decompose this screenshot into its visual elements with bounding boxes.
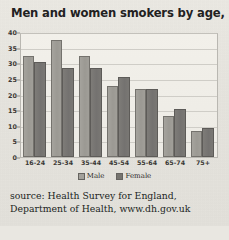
x-axis: 16-2425-3435-4445-5455-6465-7475+ xyxy=(21,160,217,171)
bar-group xyxy=(49,34,77,157)
bar-group xyxy=(77,34,105,157)
legend-item-male: Male xyxy=(78,173,105,180)
bar-male-45-54 xyxy=(107,86,119,157)
bar-male-16-24 xyxy=(23,56,35,157)
x-axis-tick-label: 35-44 xyxy=(81,160,101,166)
legend-swatch-female-icon xyxy=(116,173,123,180)
chart-legend: Male Female xyxy=(0,173,229,180)
x-axis-tick-label: 25-34 xyxy=(53,160,73,166)
legend-item-female: Female xyxy=(116,173,151,180)
legend-label-female: Female xyxy=(125,173,151,180)
bar-male-55-64 xyxy=(135,89,147,157)
bar-group xyxy=(105,34,133,157)
legend-label-male: Male xyxy=(87,173,105,180)
source-note: source: Health Survey for England, Depar… xyxy=(10,190,224,215)
bar-female-16-24 xyxy=(34,62,46,157)
bar-group xyxy=(189,34,217,157)
x-axis-tick-label: 45-54 xyxy=(109,160,129,166)
bar-series-container xyxy=(21,34,217,157)
bar-group xyxy=(21,34,49,157)
x-axis-tick-label: 65-74 xyxy=(165,160,185,166)
x-axis-tick-label: 75+ xyxy=(196,160,210,166)
x-axis-tick-label: 55-64 xyxy=(137,160,157,166)
y-axis: 0510152025303540 xyxy=(0,33,19,158)
bar-female-25-34 xyxy=(62,68,74,157)
bar-male-25-34 xyxy=(51,40,63,157)
bar-male-35-44 xyxy=(79,56,91,157)
source-line-2: of Health, www.dh.gov.uk xyxy=(70,203,191,214)
bar-female-65-74 xyxy=(174,109,186,157)
bar-male-75+ xyxy=(191,131,203,157)
bar-male-65-74 xyxy=(163,116,175,158)
bar-group xyxy=(161,34,189,157)
bar-female-45-54 xyxy=(118,77,130,157)
bar-female-55-64 xyxy=(146,89,158,157)
bar-group xyxy=(133,34,161,157)
bar-female-35-44 xyxy=(90,68,102,157)
bar-female-75+ xyxy=(202,128,214,157)
x-axis-tick-label: 16-24 xyxy=(25,160,45,166)
legend-swatch-male-icon xyxy=(78,173,85,180)
